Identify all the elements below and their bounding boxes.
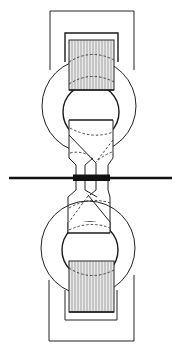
lower-coil-block xyxy=(69,261,114,312)
apparatus-drawing xyxy=(0,0,177,345)
diagram-canvas xyxy=(0,0,177,345)
central-bar xyxy=(9,175,172,182)
upper-coil-block xyxy=(69,40,114,90)
lower-assembly xyxy=(41,181,135,341)
upper-connector xyxy=(69,120,113,175)
upper-assembly xyxy=(42,11,136,175)
